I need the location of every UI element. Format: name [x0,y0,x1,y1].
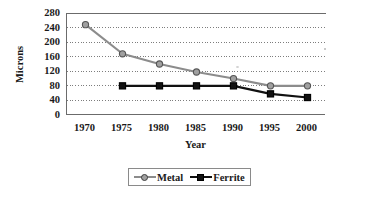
legend-label: Metal [157,172,183,183]
y-tick-label: 80 [28,81,60,91]
y-tick-label: 280 [28,8,60,18]
legend-entry-ferrite[interactable]: Ferrite [190,172,244,183]
legend-label: Ferrite [213,172,244,183]
y-tick-label: 120 [28,66,60,76]
data-point-metal [156,61,162,67]
legend-marker [197,174,204,181]
data-point-metal [267,83,273,89]
data-point-metal [193,69,199,75]
data-point-ferrite [304,94,310,100]
data-point-ferrite [156,83,162,89]
x-axis-tick-labels: 1970197519801985199019952000 [66,122,325,136]
y-axis-title-label: Microns [15,45,26,82]
scan-speck [236,66,239,68]
legend-marker [141,174,148,181]
y-tick-label: 240 [28,23,60,33]
series-line-metal [86,25,308,86]
data-point-metal [230,75,236,81]
series-line-ferrite [123,86,308,98]
y-tick-label: 0 [28,110,60,120]
x-axis-title: Year [66,139,325,150]
plot-area [66,13,325,115]
y-tick-label: 160 [28,52,60,62]
data-point-ferrite [193,83,199,89]
y-tick-label: 40 [28,95,60,105]
scan-speck [324,48,326,50]
data-point-ferrite [267,91,273,97]
y-tick-label: 200 [28,37,60,47]
x-axis-title-label: Year [185,139,206,150]
chart-legend: MetalFerrite [128,168,251,186]
legend-entry-metal[interactable]: Metal [134,172,183,183]
square-marker-icon [190,172,212,183]
data-point-ferrite [119,83,125,89]
data-point-ferrite [230,83,236,89]
plot-svg [67,13,326,115]
data-point-metal [82,22,88,28]
y-axis-tick-labels: 28024020016012080400 [28,8,60,120]
line-chart: Microns 28024020016012080400 19701975198… [0,0,375,200]
data-point-metal [119,51,125,57]
x-tick-label: 2000 [285,122,329,134]
circle-marker-icon [134,172,156,183]
data-point-metal [304,83,310,89]
y-axis-title: Microns [13,36,27,92]
